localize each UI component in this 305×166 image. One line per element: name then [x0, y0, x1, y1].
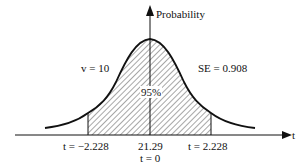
y-axis-arrow-icon — [146, 5, 154, 16]
degrees-of-freedom-label: v = 10 — [81, 62, 109, 74]
center-value-label: 21.29 — [138, 140, 163, 152]
x-axis-label: t — [292, 129, 295, 141]
x-axis-arrow-icon — [282, 131, 292, 139]
lower-critical-label: t = −2.228 — [63, 140, 109, 152]
percentage-label: 95% — [140, 86, 162, 98]
upper-critical-label: t = 2.228 — [188, 140, 228, 152]
center-t-label: t = 0 — [140, 152, 160, 164]
standard-error-label: SE = 0.908 — [198, 62, 247, 74]
y-axis-label: Probability — [156, 8, 205, 20]
